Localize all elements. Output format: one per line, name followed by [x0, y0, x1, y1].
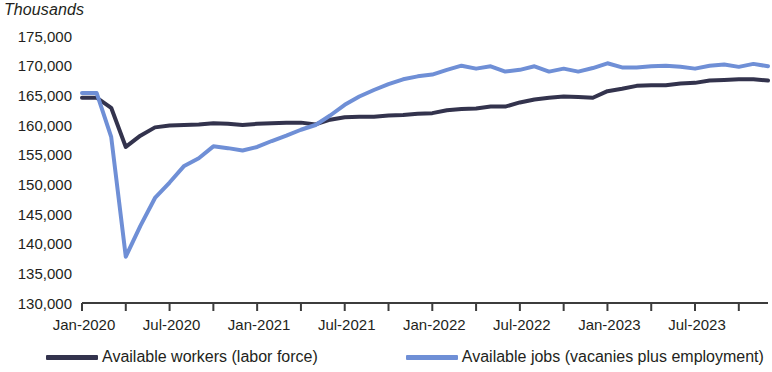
- chart-legend: Available workers (labor force) Availabl…: [0, 342, 772, 372]
- legend-item-jobs: Available jobs (vacanies plus employment…: [406, 348, 764, 366]
- line-chart: Thousands 175,000170,000165,000160,00015…: [0, 0, 772, 372]
- y-axis-tick-label: 150,000: [18, 176, 72, 193]
- chart-plot-area: 175,000170,000165,000160,000155,000150,0…: [0, 0, 772, 340]
- chart-axes: [82, 303, 768, 311]
- legend-swatch-jobs: [406, 355, 458, 360]
- x-axis-tick-labels: Jan-2020Jul-2020Jan-2021Jul-2021Jan-2022…: [53, 316, 726, 333]
- y-axis-tick-label: 130,000: [18, 295, 72, 312]
- series-line: [82, 63, 768, 256]
- y-axis-tick-label: 155,000: [18, 146, 72, 163]
- y-axis-tick-labels: 175,000170,000165,000160,000155,000150,0…: [18, 28, 72, 312]
- y-axis-tick-label: 135,000: [18, 265, 72, 282]
- legend-label-workers: Available workers (labor force): [102, 348, 318, 366]
- y-axis-tick-label: 175,000: [18, 28, 72, 45]
- legend-label-jobs: Available jobs (vacanies plus employment…: [462, 348, 764, 366]
- y-axis-tick-label: 145,000: [18, 206, 72, 223]
- x-axis-tick-label: Jul-2023: [668, 316, 726, 333]
- x-axis-tick-label: Jul-2020: [143, 316, 201, 333]
- chart-series: [82, 63, 768, 256]
- x-axis-tick-label: Jan-2020: [53, 316, 116, 333]
- legend-item-workers: Available workers (labor force): [46, 348, 318, 366]
- y-axis-tick-label: 170,000: [18, 57, 72, 74]
- x-axis-tick-label: Jan-2022: [403, 316, 466, 333]
- y-axis-tick-label: 140,000: [18, 235, 72, 252]
- x-axis-tick-label: Jan-2021: [228, 316, 291, 333]
- x-axis-tick-label: Jul-2022: [493, 316, 551, 333]
- y-axis-tick-label: 160,000: [18, 117, 72, 134]
- legend-swatch-workers: [46, 355, 98, 360]
- y-axis-tick-label: 165,000: [18, 87, 72, 104]
- x-axis-tick-label: Jul-2021: [318, 316, 376, 333]
- x-axis-tick-label: Jan-2023: [578, 316, 641, 333]
- series-line: [82, 79, 768, 147]
